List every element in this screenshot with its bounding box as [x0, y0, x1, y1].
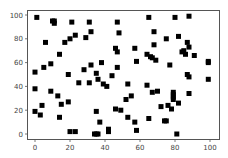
- data-point: [125, 82, 130, 87]
- data-point: [89, 29, 94, 34]
- y-tick-label: 80: [14, 35, 23, 43]
- data-point: [153, 58, 158, 63]
- data-point: [38, 113, 43, 118]
- data-point: [94, 109, 99, 114]
- data-point: [110, 73, 115, 78]
- data-point: [76, 80, 81, 85]
- data-point: [169, 107, 174, 112]
- data-point: [68, 36, 73, 41]
- data-point: [73, 33, 78, 38]
- data-point: [97, 120, 102, 125]
- data-point: [59, 102, 64, 107]
- data-point: [187, 45, 192, 50]
- x-tick-label: 20: [66, 144, 75, 152]
- data-point: [125, 115, 130, 120]
- data-point: [132, 46, 137, 51]
- data-point: [87, 80, 92, 85]
- data-point: [146, 116, 151, 121]
- data-point: [134, 59, 139, 64]
- data-point: [34, 15, 39, 20]
- data-point: [152, 29, 157, 34]
- data-point: [87, 20, 92, 25]
- data-point: [150, 90, 155, 95]
- data-point: [33, 70, 38, 75]
- data-point: [66, 99, 71, 104]
- data-point: [48, 61, 53, 66]
- data-point: [185, 40, 190, 45]
- data-point: [132, 120, 137, 125]
- data-point: [152, 42, 157, 47]
- data-point: [115, 49, 120, 54]
- data-point: [206, 60, 211, 65]
- y-axis: 020406080100: [10, 12, 28, 139]
- data-point: [159, 104, 164, 109]
- data-point: [66, 72, 71, 77]
- data-point: [174, 132, 179, 137]
- data-point: [40, 103, 45, 108]
- data-point: [124, 97, 129, 102]
- data-point: [57, 115, 62, 120]
- data-point: [192, 53, 197, 58]
- data-point: [33, 109, 38, 114]
- data-point: [171, 97, 176, 102]
- data-point: [83, 35, 88, 40]
- data-point: [117, 30, 122, 35]
- data-point: [187, 91, 192, 96]
- data-point: [104, 84, 109, 89]
- data-point: [99, 60, 104, 65]
- data-point: [113, 107, 118, 112]
- data-point: [62, 40, 67, 45]
- x-tick-label: 60: [136, 144, 145, 152]
- data-point: [55, 93, 60, 98]
- data-point: [183, 52, 188, 57]
- x-axis: 020406080100: [33, 140, 217, 153]
- data-point: [52, 21, 57, 26]
- data-point: [94, 71, 99, 76]
- data-point: [106, 129, 111, 134]
- y-tick-label: 20: [14, 107, 23, 115]
- data-point: [118, 108, 123, 113]
- data-point: [164, 36, 169, 41]
- data-point: [187, 74, 192, 79]
- data-point: [164, 118, 169, 123]
- data-point: [134, 128, 139, 133]
- data-point: [167, 63, 172, 68]
- scatter-chart: 020406080100 020406080100: [0, 0, 228, 158]
- data-point: [187, 14, 192, 19]
- data-point: [57, 52, 62, 57]
- y-tick-label: 100: [10, 12, 23, 20]
- y-tick-label: 40: [14, 83, 23, 91]
- data-point: [129, 93, 134, 98]
- data-point: [146, 15, 151, 20]
- data-point: [69, 20, 74, 25]
- data-point: [173, 15, 178, 20]
- x-tick-label: 100: [203, 144, 216, 152]
- data-point: [115, 20, 120, 25]
- data-point: [176, 101, 181, 106]
- data-point: [41, 65, 46, 70]
- y-tick-label: 60: [14, 59, 23, 67]
- data-point: [115, 65, 120, 70]
- data-point: [96, 132, 101, 137]
- data-point: [82, 67, 87, 72]
- x-tick-label: 0: [33, 144, 37, 152]
- y-tick-label: 0: [19, 131, 23, 139]
- data-point: [155, 89, 160, 94]
- data-point: [48, 89, 53, 94]
- x-tick-label: 80: [171, 144, 180, 152]
- data-point: [176, 34, 181, 39]
- data-point: [73, 129, 78, 134]
- data-point: [43, 40, 48, 45]
- data-point: [68, 129, 73, 134]
- data-point: [89, 63, 94, 68]
- data-point: [96, 77, 101, 82]
- data-point: [206, 77, 211, 82]
- data-point: [145, 83, 150, 88]
- data-point: [33, 86, 38, 91]
- x-tick-label: 40: [101, 144, 110, 152]
